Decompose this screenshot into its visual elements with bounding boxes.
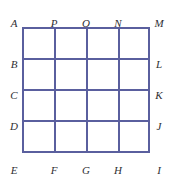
vertex-label-b: B [7, 59, 21, 70]
grid-line-horizontal-4 [22, 151, 150, 153]
vertex-label-d: D [7, 121, 21, 132]
vertex-label-h: H [111, 165, 125, 176]
vertex-label-m: M [152, 18, 166, 29]
grid-area [22, 27, 150, 153]
vertex-label-p: P [47, 18, 61, 29]
vertex-label-l: L [152, 59, 166, 70]
grid-line-horizontal-3 [22, 120, 150, 122]
vertex-label-i: I [152, 165, 166, 176]
vertex-label-n: N [111, 18, 125, 29]
vertex-label-e: E [7, 165, 21, 176]
vertex-label-a: A [7, 18, 21, 29]
vertex-label-k: K [152, 90, 166, 101]
vertex-label-g: G [79, 165, 93, 176]
grid-line-horizontal-2 [22, 89, 150, 91]
vertex-label-j: J [152, 121, 166, 132]
vertex-label-o: O [79, 18, 93, 29]
vertex-label-f: F [47, 165, 61, 176]
grid-line-horizontal-1 [22, 58, 150, 60]
vertex-label-c: C [7, 90, 21, 101]
grid-figure: A P O N M B C D L K J E F G H I [0, 0, 173, 176]
